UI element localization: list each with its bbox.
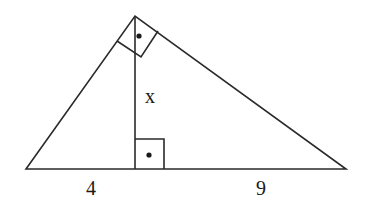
left-segment-label: 4 xyxy=(86,177,96,199)
right-segment-label: 9 xyxy=(256,177,266,199)
triangle-diagram: x 4 9 xyxy=(0,0,366,206)
right-angle-dot-foot xyxy=(146,152,151,157)
right-angle-dot-apex xyxy=(136,33,141,38)
altitude-label: x xyxy=(145,85,155,107)
outer-triangle xyxy=(26,16,346,169)
